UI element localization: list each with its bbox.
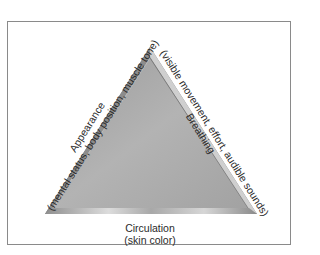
circulation-detail: (skin color) bbox=[100, 234, 200, 246]
circulation-label: Circulation (skin color) bbox=[100, 222, 200, 246]
circulation-title: Circulation bbox=[100, 222, 200, 234]
